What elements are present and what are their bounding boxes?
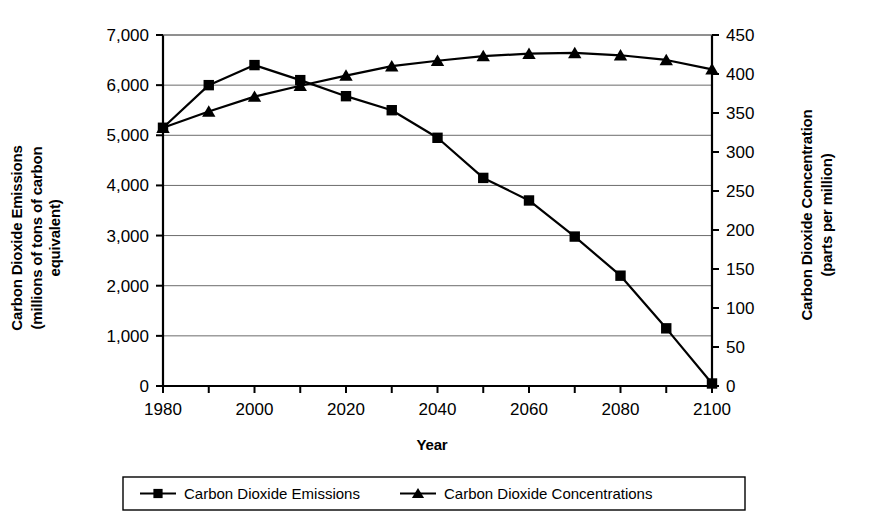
right-tick-label: 400 <box>726 65 754 84</box>
right-axis-title-line1: Carbon Dioxide Concentration <box>798 109 815 320</box>
legend-label: Carbon Dioxide Emissions <box>184 485 360 502</box>
x-axis-title: Year <box>417 436 448 453</box>
x-tick-label: 2060 <box>510 400 548 419</box>
data-point-square-marker <box>153 489 162 498</box>
legend-label: Carbon Dioxide Concentrations <box>444 485 652 502</box>
left-tick-label: 7,000 <box>106 26 149 45</box>
data-point-square-marker <box>341 91 351 101</box>
data-point-square-marker <box>432 133 442 143</box>
data-point-square-marker <box>204 80 214 90</box>
chart-legend: Carbon Dioxide EmissionsCarbon Dioxide C… <box>123 477 745 510</box>
x-tick-label: 2080 <box>602 400 640 419</box>
right-tick-label: 300 <box>726 143 754 162</box>
left-tick-label: 1,000 <box>106 327 149 346</box>
left-tick-label: 6,000 <box>106 76 149 95</box>
data-point-square-marker <box>707 378 717 388</box>
left-axis-title-line3: equivalent) <box>46 199 63 276</box>
right-tick-label: 450 <box>726 26 754 45</box>
left-tick-label: 0 <box>140 377 149 396</box>
x-tick-label: 2040 <box>419 400 457 419</box>
right-tick-label: 350 <box>726 104 754 123</box>
data-point-square-marker <box>478 173 488 183</box>
right-tick-label: 200 <box>726 221 754 240</box>
x-tick-label: 1980 <box>144 400 182 419</box>
right-tick-label: 150 <box>726 260 754 279</box>
right-tick-label: 100 <box>726 299 754 318</box>
right-axis-title-line2: (parts per million) <box>818 153 835 276</box>
left-axis-title-line1: Carbon Dioxide Emissions <box>8 145 25 330</box>
left-tick-label: 4,000 <box>106 176 149 195</box>
data-point-square-marker <box>387 105 397 115</box>
right-tick-label: 250 <box>726 182 754 201</box>
data-point-square-marker <box>249 60 259 70</box>
left-axis-title-line2: (millions of tons of carbon <box>28 147 45 330</box>
chart-figure: 7,0006,0005,0004,0003,0002,0001,00004504… <box>0 0 878 527</box>
left-tick-label: 5,000 <box>106 126 149 145</box>
x-tick-label: 2000 <box>236 400 274 419</box>
right-tick-label: 50 <box>726 338 745 357</box>
left-tick-label: 3,000 <box>106 227 149 246</box>
data-point-square-marker <box>570 231 580 241</box>
data-point-square-marker <box>524 195 534 205</box>
left-tick-label: 2,000 <box>106 277 149 296</box>
co2-emissions-concentration-chart: 7,0006,0005,0004,0003,0002,0001,00004504… <box>0 0 878 527</box>
data-point-square-marker <box>661 323 671 333</box>
right-tick-label: 0 <box>726 377 735 396</box>
x-tick-label: 2100 <box>693 400 731 419</box>
x-tick-label: 2020 <box>327 400 365 419</box>
data-point-square-marker <box>615 270 625 280</box>
